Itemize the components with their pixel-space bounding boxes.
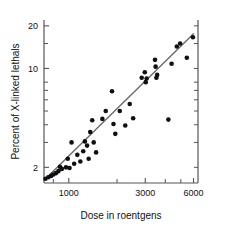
data-point-group (43, 35, 195, 181)
data-point (94, 150, 99, 155)
data-point (60, 167, 65, 172)
data-point (144, 76, 149, 81)
data-point (113, 132, 118, 137)
data-point (143, 70, 148, 75)
x-axis-title: Dose in roentgens (80, 210, 161, 221)
data-point (72, 161, 77, 166)
data-point (69, 140, 74, 145)
x-axis-tick-label: 6000 (183, 188, 203, 198)
data-point (90, 118, 95, 123)
data-point (111, 122, 116, 127)
x-axis-tick-label: 1000 (59, 188, 79, 198)
data-point (155, 73, 160, 78)
data-point (153, 64, 158, 69)
data-point (65, 156, 70, 161)
data-point (100, 117, 105, 122)
data-point (178, 41, 183, 46)
data-point (86, 156, 91, 161)
data-point (117, 109, 122, 114)
data-point (110, 89, 115, 94)
data-point (127, 102, 132, 107)
x-axis-tick-label: 3000 (135, 188, 155, 198)
data-point (153, 58, 158, 63)
data-point (185, 55, 190, 60)
data-point (91, 140, 96, 145)
data-point (139, 75, 144, 80)
data-point (88, 130, 93, 135)
data-point (166, 117, 171, 122)
data-point (78, 159, 83, 164)
data-point (67, 166, 72, 171)
y-axis-title: Percent of X-linked lethals (10, 43, 21, 159)
data-point (83, 139, 88, 144)
data-point (191, 35, 196, 40)
data-point (131, 116, 136, 121)
chart-canvas: 21020100030006000Dose in roentgensPercen… (0, 0, 226, 236)
y-axis-tick-label: 2 (33, 163, 38, 173)
data-point (75, 153, 80, 158)
data-point (103, 109, 108, 114)
scatter-chart-figure: 21020100030006000Dose in roentgensPercen… (0, 0, 226, 236)
data-point (123, 123, 128, 128)
data-point (81, 149, 86, 154)
data-point (85, 143, 90, 148)
y-axis-tick-label: 10 (28, 64, 38, 74)
y-axis-tick-label: 20 (28, 21, 38, 31)
data-point (169, 61, 174, 66)
